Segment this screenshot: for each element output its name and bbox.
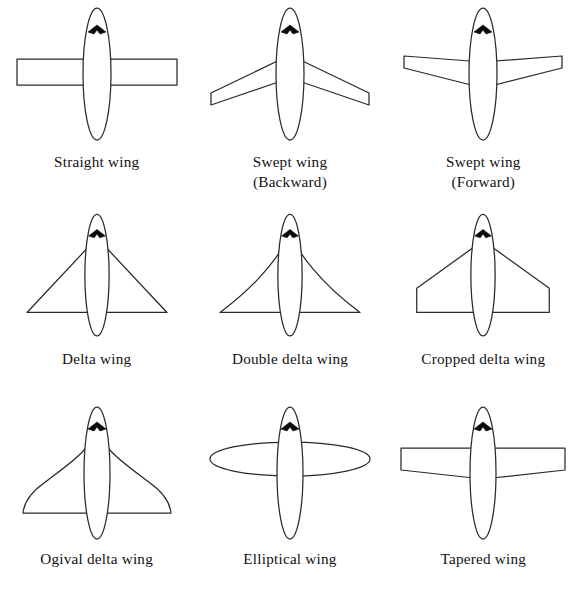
swept-wing-backward-drawing xyxy=(197,0,383,150)
planform-caption: Tapered wing xyxy=(441,549,527,569)
cropped-delta-wing-drawing xyxy=(390,207,576,347)
planform-caption: Double delta wing xyxy=(232,349,348,369)
planform-caption: Swept wing (Backward) xyxy=(253,152,327,192)
planform-cell-cropped-delta-wing: Cropped delta wing xyxy=(387,207,580,397)
planform-cell-ogival-delta-wing: Ogival delta wing xyxy=(0,397,193,613)
planform-caption: Ogival delta wing xyxy=(40,549,153,569)
planform-cell-elliptical-wing: Elliptical wing xyxy=(193,397,386,613)
planform-cell-swept-wing-backward: Swept wing (Backward) xyxy=(193,0,386,207)
straight-wing-drawing xyxy=(4,0,190,150)
planform-grid: Straight wing Swept wing (Backward) xyxy=(0,0,580,613)
planform-caption: Cropped delta wing xyxy=(421,349,545,369)
planform-caption: Straight wing xyxy=(54,152,139,172)
elliptical-wing-drawing xyxy=(197,397,383,547)
double-delta-wing-drawing xyxy=(197,207,383,347)
planform-cell-swept-wing-forward: Swept wing (Forward) xyxy=(387,0,580,207)
planform-cell-straight-wing: Straight wing xyxy=(0,0,193,207)
delta-wing-drawing xyxy=(4,207,190,347)
planform-cell-delta-wing: Delta wing xyxy=(0,207,193,397)
planform-caption: Elliptical wing xyxy=(243,549,336,569)
planform-cell-tapered-wing: Tapered wing xyxy=(387,397,580,613)
planform-cell-double-delta-wing: Double delta wing xyxy=(193,207,386,397)
swept-wing-forward-drawing xyxy=(390,0,576,150)
tapered-wing-drawing xyxy=(390,397,576,547)
planform-caption: Swept wing (Forward) xyxy=(446,152,520,192)
wing-planform-figure: Straight wing Swept wing (Backward) xyxy=(0,0,580,613)
ogival-delta-wing-drawing xyxy=(4,397,190,547)
planform-caption: Delta wing xyxy=(62,349,131,369)
